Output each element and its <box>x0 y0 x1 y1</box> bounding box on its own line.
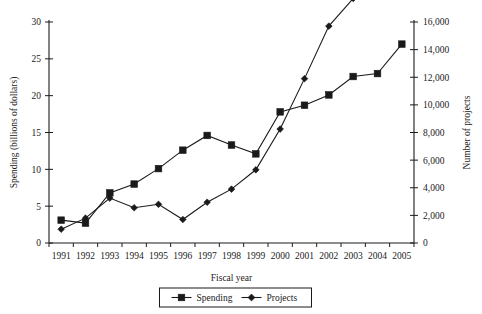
projects-data-point <box>155 201 162 208</box>
right-tick-label: 2,000 <box>423 211 445 221</box>
x-tick-label: 2001 <box>295 251 314 261</box>
left-tick-label: 15 <box>32 128 42 138</box>
right-tick-label: 4,000 <box>423 183 445 193</box>
x-tick-label: 2000 <box>271 251 290 261</box>
projects-data-point <box>277 126 284 133</box>
projects-data-point <box>204 199 211 206</box>
left-tick-label: 30 <box>32 17 42 27</box>
x-tick-label: 2005 <box>392 251 411 261</box>
line-chart-figure: 051015202530 02,0004,0006,0008,00010,000… <box>0 0 482 314</box>
axes-group <box>49 20 414 243</box>
spending-data-point <box>155 165 162 172</box>
left-tick-label: 20 <box>32 91 42 101</box>
x-tick-label: 2002 <box>319 251 338 261</box>
projects-data-point <box>131 204 138 211</box>
spending-data-point <box>180 147 187 154</box>
right-tick-label: 10,000 <box>423 100 449 110</box>
left-tick-label: 25 <box>32 54 42 64</box>
x-tick-label: 2003 <box>344 251 363 261</box>
series-projects <box>58 0 405 233</box>
right-axis-ticks: 02,0004,0006,0008,00010,00012,00014,0001… <box>410 17 449 248</box>
left-tick-label: 5 <box>36 202 41 212</box>
chart-legend: SpendingProjects <box>160 288 312 307</box>
right-tick-label: 16,000 <box>423 17 449 27</box>
x-tick-label: 1999 <box>246 251 265 261</box>
legend-label: Spending <box>197 293 233 303</box>
spending-data-point <box>374 70 381 77</box>
legend-label: Projects <box>267 293 298 303</box>
projects-data-point <box>58 226 65 233</box>
x-tick-label: 1993 <box>100 251 119 261</box>
spending-data-point <box>131 181 138 188</box>
spending-data-point <box>204 132 211 139</box>
x-tick-label: 1997 <box>198 251 217 261</box>
x-axis-ticks: 1991199219931994199519961997199819992000… <box>49 243 414 261</box>
spending-data-point <box>350 73 357 80</box>
left-tick-label: 10 <box>32 165 42 175</box>
x-tick-label: 1995 <box>149 251 168 261</box>
spending-data-point <box>178 294 185 301</box>
spending-data-point <box>277 109 284 116</box>
projects-data-point <box>301 75 308 82</box>
spending-data-point <box>58 217 65 224</box>
spending-data-point <box>301 102 308 109</box>
left-axis-ticks: 051015202530 <box>32 17 54 248</box>
right-tick-label: 8,000 <box>423 128 445 138</box>
y-axis-title: Spending (billions of dollars) <box>9 77 20 189</box>
left-tick-label: 0 <box>36 238 41 248</box>
right-tick-label: 12,000 <box>423 73 449 83</box>
spending-data-point <box>399 41 406 48</box>
x-axis-title: Fiscal year <box>211 273 253 283</box>
x-tick-label: 1998 <box>222 251 241 261</box>
spending-data-point <box>228 142 235 149</box>
series-layer <box>58 0 405 233</box>
x-tick-label: 1991 <box>52 251 71 261</box>
projects-data-point <box>179 216 186 223</box>
x-tick-label: 2004 <box>368 251 387 261</box>
x-tick-label: 1996 <box>173 251 192 261</box>
x-tick-label: 1992 <box>76 251 95 261</box>
right-tick-label: 0 <box>423 238 428 248</box>
x-tick-label: 1994 <box>125 251 144 261</box>
spending-data-point <box>253 151 260 158</box>
chart-container: 051015202530 02,0004,0006,0008,00010,000… <box>0 0 482 314</box>
y2-axis-title: Number of projects <box>462 95 472 169</box>
right-tick-label: 6,000 <box>423 156 445 166</box>
right-tick-label: 14,000 <box>423 45 449 55</box>
spending-data-point <box>326 92 333 99</box>
